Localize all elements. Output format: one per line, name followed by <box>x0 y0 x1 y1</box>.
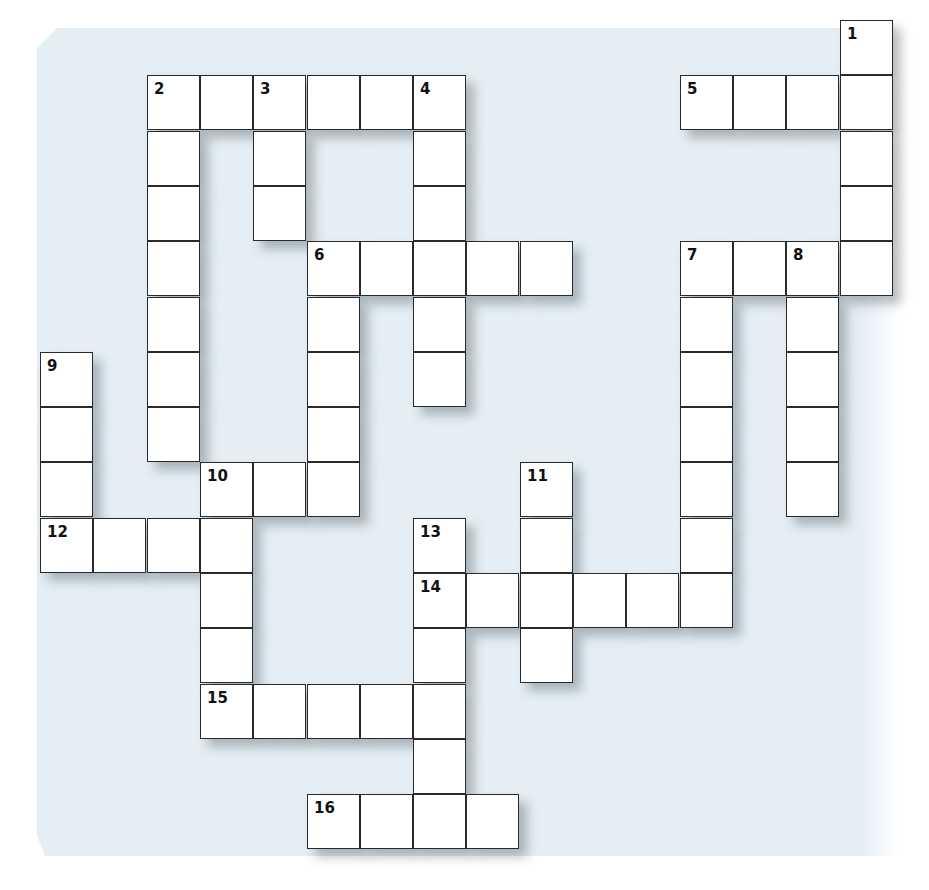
clue-number: 13 <box>420 523 441 541</box>
clue-number: 14 <box>420 578 441 596</box>
crossword-cell[interactable]: 15 <box>200 684 253 739</box>
crossword-cell[interactable]: 16 <box>307 794 360 849</box>
crossword-cell[interactable] <box>680 462 733 517</box>
crossword-cell[interactable] <box>360 684 413 739</box>
crossword-cell[interactable] <box>786 352 839 407</box>
clue-number: 6 <box>314 246 324 264</box>
crossword-cell[interactable] <box>360 75 413 130</box>
crossword-cell[interactable]: 6 <box>307 241 360 296</box>
crossword-cell[interactable] <box>680 407 733 462</box>
crossword-cell[interactable]: 3 <box>253 75 306 130</box>
crossword-cell[interactable]: 7 <box>680 241 733 296</box>
crossword-cell[interactable] <box>786 407 839 462</box>
crossword-cell[interactable] <box>307 407 360 462</box>
crossword-cell[interactable]: 10 <box>200 462 253 517</box>
crossword-cell[interactable] <box>93 518 146 573</box>
crossword-cell[interactable] <box>840 241 893 296</box>
crossword-cell[interactable] <box>307 75 360 130</box>
crossword-cell[interactable] <box>520 518 573 573</box>
clue-number: 9 <box>47 357 57 375</box>
crossword-cell[interactable] <box>520 241 573 296</box>
crossword-cell[interactable]: 1 <box>840 20 893 75</box>
crossword-cell[interactable] <box>840 131 893 186</box>
crossword-cell[interactable] <box>680 518 733 573</box>
crossword-cell[interactable] <box>466 794 519 849</box>
crossword-cell[interactable] <box>413 794 466 849</box>
crossword-cell[interactable] <box>253 462 306 517</box>
crossword-cell[interactable]: 12 <box>40 518 93 573</box>
crossword-cell[interactable] <box>680 573 733 628</box>
crossword-cell[interactable]: 2 <box>147 75 200 130</box>
crossword-cell[interactable] <box>360 241 413 296</box>
crossword-cell[interactable] <box>147 186 200 241</box>
crossword-cell[interactable] <box>147 407 200 462</box>
crossword-cell[interactable] <box>147 131 200 186</box>
crossword-cell[interactable] <box>307 297 360 352</box>
crossword-cell[interactable] <box>200 628 253 683</box>
crossword-cell[interactable] <box>147 518 200 573</box>
crossword-cell[interactable] <box>786 297 839 352</box>
crossword-cell[interactable] <box>147 352 200 407</box>
clue-number: 15 <box>207 689 228 707</box>
crossword-cell[interactable] <box>307 462 360 517</box>
crossword-cell[interactable] <box>413 297 466 352</box>
clue-number: 3 <box>260 80 270 98</box>
clue-number: 11 <box>527 467 548 485</box>
crossword-cell[interactable] <box>840 75 893 130</box>
crossword-cell[interactable] <box>413 628 466 683</box>
crossword-cell[interactable] <box>360 794 413 849</box>
crossword-cell[interactable] <box>253 131 306 186</box>
crossword-cell[interactable]: 14 <box>413 573 466 628</box>
crossword-cell[interactable] <box>253 684 306 739</box>
crossword-cell[interactable]: 8 <box>786 241 839 296</box>
crossword-cell[interactable] <box>680 352 733 407</box>
crossword-cell[interactable] <box>413 131 466 186</box>
crossword-cell[interactable] <box>573 573 626 628</box>
crossword-cell[interactable] <box>466 241 519 296</box>
crossword-cell[interactable] <box>520 628 573 683</box>
crossword-cell[interactable]: 5 <box>680 75 733 130</box>
crossword-cell[interactable] <box>413 186 466 241</box>
crossword-cell[interactable] <box>413 352 466 407</box>
clue-number: 16 <box>314 799 335 817</box>
crossword-cell[interactable] <box>307 352 360 407</box>
crossword-cell[interactable]: 13 <box>413 518 466 573</box>
crossword-cell[interactable] <box>253 186 306 241</box>
crossword-cell[interactable] <box>786 462 839 517</box>
crossword-cell[interactable] <box>147 241 200 296</box>
crossword-cell[interactable] <box>200 573 253 628</box>
crossword-cell[interactable] <box>40 462 93 517</box>
clue-number: 12 <box>47 523 68 541</box>
clue-number: 7 <box>687 246 697 264</box>
crossword-cell[interactable] <box>307 684 360 739</box>
crossword-cell[interactable]: 9 <box>40 352 93 407</box>
crossword-cell[interactable] <box>413 684 466 739</box>
crossword-cell[interactable] <box>147 297 200 352</box>
crossword-cell[interactable] <box>40 407 93 462</box>
crossword-cell[interactable] <box>840 186 893 241</box>
clue-number: 8 <box>793 246 803 264</box>
crossword-cell[interactable]: 11 <box>520 462 573 517</box>
crossword-cell[interactable] <box>413 739 466 794</box>
crossword-cell[interactable] <box>786 75 839 130</box>
crossword-cell[interactable] <box>520 573 573 628</box>
crossword-cell[interactable] <box>733 241 786 296</box>
crossword-cell[interactable] <box>200 75 253 130</box>
clue-number: 10 <box>207 467 228 485</box>
crossword-cell[interactable] <box>413 241 466 296</box>
crossword-grid: 12345678912101511131416 <box>0 0 929 890</box>
clue-number: 1 <box>847 25 857 43</box>
crossword-cell[interactable]: 4 <box>413 75 466 130</box>
crossword-cell[interactable] <box>680 297 733 352</box>
clue-number: 5 <box>687 80 697 98</box>
crossword-cell[interactable] <box>733 75 786 130</box>
clue-number: 4 <box>420 80 430 98</box>
clue-number: 2 <box>154 80 164 98</box>
crossword-cell[interactable] <box>466 573 519 628</box>
crossword-cell[interactable] <box>626 573 679 628</box>
crossword-cell[interactable] <box>200 518 253 573</box>
